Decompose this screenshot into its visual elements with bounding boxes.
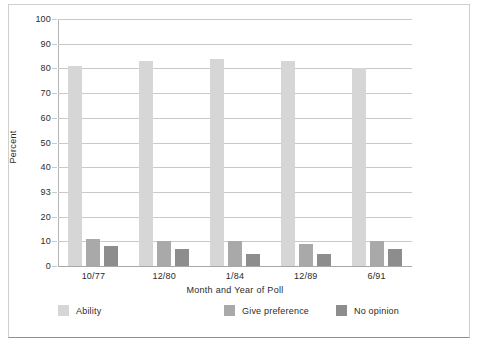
y-axis-tick-label: 40	[41, 162, 51, 172]
y-axis-tick-mark	[52, 167, 57, 168]
legend-item: Ability	[58, 305, 101, 316]
y-axis-tick-label: 100	[35, 14, 51, 24]
x-axis-tick-label: 1/84	[226, 271, 244, 281]
bar	[86, 239, 100, 266]
legend-swatch-icon	[336, 305, 347, 316]
y-axis-tick-label: 60	[41, 113, 51, 123]
plot-area: 0102093405060708090100 10/7712/801/8412/…	[58, 19, 412, 266]
bar	[388, 249, 402, 266]
bar	[210, 59, 224, 266]
bar	[175, 249, 189, 266]
y-axis-tick-mark	[52, 192, 57, 193]
bar	[104, 246, 118, 266]
y-axis-tick-mark	[52, 143, 57, 144]
gridline	[58, 266, 412, 267]
y-axis-tick-mark	[52, 68, 57, 69]
legend-item: Give preference	[224, 305, 309, 316]
y-axis-tick-mark	[52, 93, 57, 94]
bar	[352, 68, 366, 266]
y-axis-tick-label: 70	[41, 88, 51, 98]
y-axis-title: Percent	[8, 130, 18, 163]
bar	[228, 241, 242, 266]
y-axis-tick-mark	[52, 44, 57, 45]
bar-group	[210, 19, 260, 266]
y-axis-tick-label: 50	[41, 138, 51, 148]
x-axis-tick-label: 10/77	[82, 271, 106, 281]
y-axis-tick-mark	[52, 266, 57, 267]
y-axis-tick-mark	[52, 19, 57, 20]
x-axis-title: Month and Year of Poll	[58, 285, 412, 295]
legend-swatch-icon	[224, 305, 235, 316]
bar-group	[68, 19, 118, 266]
chart-legend: AbilityGive preferenceNo opinion	[58, 305, 418, 321]
legend-label: Give preference	[242, 306, 309, 316]
bar	[68, 66, 82, 266]
chart-page: Percent 0102093405060708090100 10/7712/8…	[0, 0, 478, 348]
bar	[246, 254, 260, 266]
x-axis-tick-label: 6/91	[367, 271, 385, 281]
y-axis-tick-label: 90	[41, 39, 51, 49]
x-axis-tick-label: 12/89	[294, 271, 318, 281]
y-axis-tick-mark	[52, 118, 57, 119]
bar-group	[281, 19, 331, 266]
y-axis-tick-label: 20	[41, 212, 51, 222]
bar	[317, 254, 331, 266]
y-axis-tick-mark	[52, 217, 57, 218]
bar-group	[139, 19, 189, 266]
bar	[299, 244, 313, 266]
bar	[281, 61, 295, 266]
legend-label: No opinion	[354, 306, 399, 316]
legend-swatch-icon	[58, 305, 69, 316]
bar	[157, 241, 171, 266]
legend-item: No opinion	[336, 305, 399, 316]
y-axis-tick-label: 80	[41, 63, 51, 73]
x-axis-tick-label: 12/80	[152, 271, 176, 281]
y-axis-tick-label: 0	[46, 261, 51, 271]
bar-group	[352, 19, 402, 266]
y-axis-tick-mark	[52, 241, 57, 242]
y-axis-tick-label: 93	[41, 187, 51, 197]
bar	[139, 61, 153, 266]
legend-label: Ability	[76, 306, 101, 316]
y-axis-tick-label: 10	[41, 236, 51, 246]
bar	[370, 241, 384, 266]
